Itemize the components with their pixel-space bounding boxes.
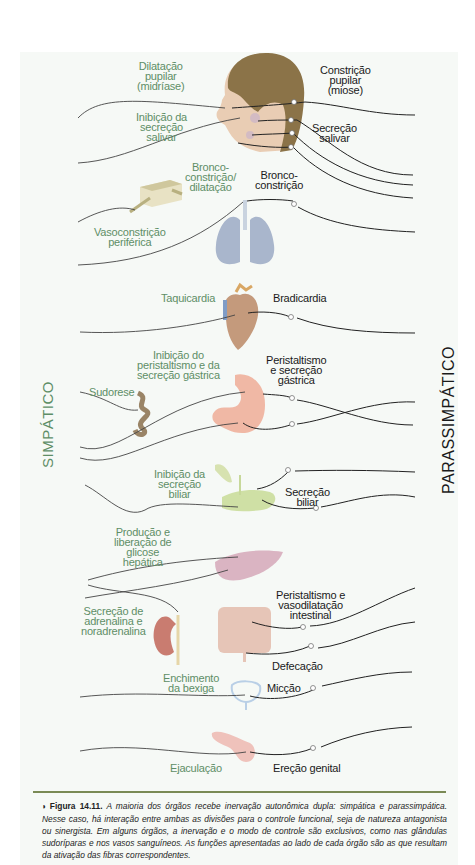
figure-number: Figura 14.11. [50, 801, 103, 811]
label-tachycardia: Taquicardia [161, 293, 215, 303]
label-bronchoconstriction: Bronco- constrição [255, 170, 303, 190]
label-bradycardia: Bradicardia [273, 293, 326, 303]
parasympathetic-side-label: PARASSIMPÁTICO [440, 364, 458, 494]
kidney-adrenal-illustration [154, 615, 178, 665]
figure-caption: ◗Figura 14.11. A maioria dos órgãos rece… [42, 800, 447, 861]
label-inhibit-bile: Inibição da secreção biliar [154, 469, 205, 499]
head-illustration [217, 53, 305, 152]
label-glucose-release: Produção e liberação de glicose hepática [114, 527, 172, 567]
sympathetic-side-label: SIMPÁTICO [39, 375, 56, 475]
caption-text: A maioria dos órgãos recebe inervação au… [42, 801, 447, 860]
label-inhibit-saliva: Inibição da secreção salivar [136, 112, 187, 142]
caption-marker-icon: ◗ [42, 802, 47, 811]
label-bile-secretion: Secreção biliar [285, 487, 330, 507]
parasympathetic-fibers [232, 102, 415, 755]
label-adrenaline-secretion: Secreção de adrenalina e noradrenalina [81, 606, 146, 636]
label-inhibit-gastric: Inibição do peristaltismo e da secreção … [137, 350, 220, 380]
sweat-gland-illustration [135, 393, 148, 434]
blood-vessel-illustration [130, 180, 182, 212]
label-gastric-peristalsis: Peristaltismo e secreção gástrica [266, 355, 326, 385]
label-intestinal-peristalsis: Peristaltismo e vasodilatação intestinal [276, 590, 345, 620]
ganglion-markers [286, 100, 319, 751]
label-saliva-secretion: Secreção salivar [312, 123, 357, 143]
lungs-illustration [216, 200, 274, 264]
label-bronchodilation: Bronco- constrição/ dilatação [185, 162, 236, 192]
label-vasoconstriction: Vasoconstrição periférica [94, 227, 166, 247]
label-micturition: Micção [267, 683, 301, 693]
caption-divider [33, 791, 446, 793]
stomach-illustration [212, 374, 265, 433]
label-sweating: Sudorese [89, 387, 135, 397]
label-bladder-filling: Enchimento da bexiga [163, 673, 219, 693]
autonomic-innervation-diagram [0, 0, 475, 865]
label-pupil-dilation: Dilatação pupilar (midríase) [137, 61, 185, 91]
genitals-illustration [212, 732, 255, 762]
liver-illustration [215, 550, 283, 580]
pancreas-illustration [215, 464, 275, 511]
label-pupil-constriction: Constrição pupilar (miose) [320, 65, 371, 95]
label-genital-erection: Ereção genital [273, 763, 341, 773]
heart-illustration [223, 285, 258, 350]
label-ejaculation: Ejaculação [170, 763, 222, 773]
label-defecation: Defecação [272, 661, 323, 671]
